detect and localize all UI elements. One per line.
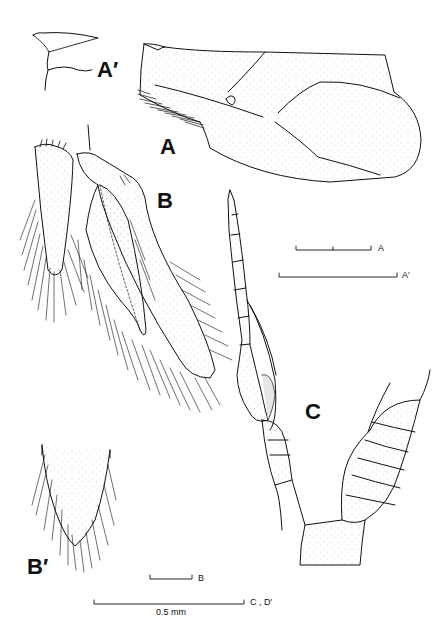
panel-a-prime-drawing xyxy=(33,33,98,90)
scale-label-a: A xyxy=(378,244,384,253)
panel-b-prime-drawing xyxy=(32,445,116,572)
panel-label-b: B xyxy=(157,190,173,212)
panel-label-a: A xyxy=(160,136,176,158)
panel-c-drawing xyxy=(228,190,305,530)
scale-label-a-prime: A′ xyxy=(402,271,410,280)
panel-b-drawing xyxy=(20,125,232,412)
panel-label-b-prime: B′ xyxy=(27,556,48,578)
scale-label-c-d-prime: C , D′ xyxy=(250,598,272,607)
figure-drawing xyxy=(0,0,445,644)
scale-caption-0-5mm: 0.5 mm xyxy=(156,608,186,617)
panel-label-c: C xyxy=(305,401,321,423)
scale-label-b: B xyxy=(198,574,204,583)
panel-a-drawing xyxy=(138,44,421,182)
panel-label-a-prime: A′ xyxy=(97,59,118,81)
